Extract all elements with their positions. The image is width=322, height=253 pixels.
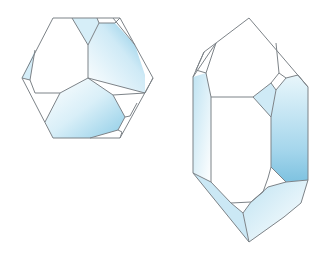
face-left-prism <box>193 73 211 182</box>
face-right-upper <box>88 23 145 93</box>
face-bottom <box>45 78 125 138</box>
crystal-diagram <box>0 0 322 253</box>
face-right-prism <box>271 75 308 182</box>
crystal-hexagonal <box>22 18 153 138</box>
figure-canvas <box>0 0 322 253</box>
crystal-prismatic <box>193 18 308 242</box>
face-lower-right <box>243 180 308 242</box>
